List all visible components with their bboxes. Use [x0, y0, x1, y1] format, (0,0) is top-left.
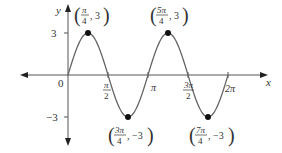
annotation-peak-2: ( 5π 4 , 3 )	[150, 4, 189, 27]
x-axis-left-arrow-icon	[20, 72, 28, 78]
annotation-peak-1: ( π 4 , 3 )	[74, 4, 110, 27]
svg-text:4: 4	[198, 136, 203, 146]
paren-close: )	[103, 4, 110, 27]
trough-point-2	[205, 114, 211, 120]
x-axis-label: x	[265, 76, 271, 88]
svg-text:(: (	[150, 4, 157, 27]
svg-text:, 3: , 3	[90, 10, 100, 21]
y-axis-down-arrow-icon	[65, 138, 71, 146]
x-label-half-num: π	[104, 80, 109, 90]
y-label-3: 3	[51, 27, 57, 39]
svg-text:7π: 7π	[196, 125, 206, 135]
svg-text:(: (	[189, 124, 196, 147]
paren-open: (	[74, 4, 81, 27]
svg-text:, −3: , −3	[127, 130, 143, 141]
x-label-2pi: 2π	[225, 83, 236, 94]
x-label-pi: π	[151, 82, 157, 93]
peak-point-1	[85, 30, 91, 36]
svg-text:, −3: , −3	[208, 130, 224, 141]
y-axis-up-arrow-icon	[65, 4, 71, 12]
svg-text:3π: 3π	[114, 125, 125, 135]
origin-label: 0	[58, 77, 64, 89]
svg-text:4: 4	[117, 136, 122, 146]
annotation-trough-1: ( 3π 4 , −3 )	[108, 124, 154, 147]
sine-graph: y x 0 3 −3 π 2 π 3π 2 2π ( π 4 , 3 ) ( 5…	[0, 0, 282, 153]
x-label-half-den: 2	[104, 91, 109, 101]
svg-text:): )	[228, 124, 235, 147]
svg-text:, 3: , 3	[169, 10, 179, 21]
svg-text:): )	[182, 4, 189, 27]
y-axis-label: y	[55, 4, 61, 16]
x-label-3half-den: 2	[186, 91, 191, 101]
trough-point-1	[125, 114, 131, 120]
x-label-3half-num: 3π	[183, 80, 194, 90]
svg-text:(: (	[108, 124, 115, 147]
svg-text:4: 4	[82, 16, 87, 26]
svg-text:π: π	[82, 5, 87, 15]
svg-text:4: 4	[159, 16, 164, 26]
peak-point-2	[165, 30, 171, 36]
annotation-trough-2: ( 7π 4 , −3 )	[189, 124, 235, 147]
svg-text:): )	[147, 124, 154, 147]
y-label-neg3: −3	[46, 111, 58, 123]
svg-text:5π: 5π	[157, 5, 167, 15]
